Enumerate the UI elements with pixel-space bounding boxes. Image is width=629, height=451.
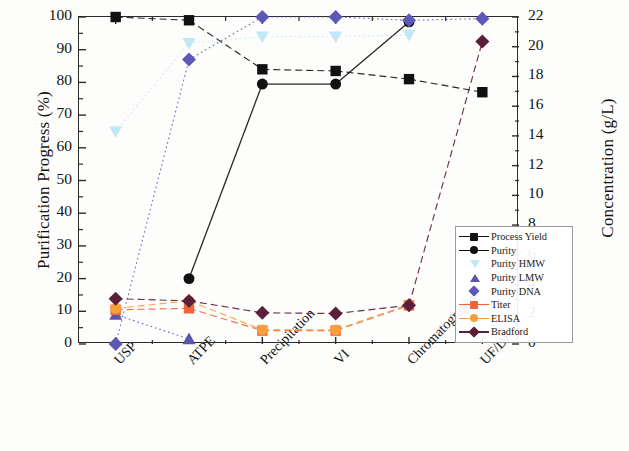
- y2-tick-label: 22: [528, 6, 568, 24]
- data-point: [477, 87, 487, 97]
- series-line: [189, 20, 262, 69]
- series-line: [336, 35, 409, 37]
- series-line: [336, 305, 409, 313]
- legend-label: Titer: [489, 299, 511, 310]
- data-point: [255, 306, 269, 320]
- legend-item[interactable]: Purity LMW: [459, 271, 568, 285]
- legend-label: Purity HMW: [489, 258, 545, 269]
- data-point: [475, 12, 489, 26]
- y2-tick-label: 12: [528, 155, 568, 173]
- legend-marker-circle-icon: [459, 244, 489, 257]
- legend-item[interactable]: Purity: [459, 244, 568, 258]
- legend-label: ELISA: [489, 313, 520, 324]
- y2-tick-label: 18: [528, 65, 568, 83]
- x-tick-label: VI: [331, 346, 353, 368]
- y2-tick-label: 20: [528, 36, 568, 54]
- y-tick-label: 70: [32, 104, 72, 122]
- data-point: [403, 30, 416, 42]
- legend-item[interactable]: Purity HMW: [459, 257, 568, 271]
- data-point: [330, 66, 340, 76]
- purification-progress-chart: Purification Progress (%) Concentration …: [0, 0, 629, 451]
- series-line: [262, 69, 335, 71]
- data-point: [184, 15, 194, 25]
- y-tick-label: 90: [32, 39, 72, 57]
- series-line: [116, 301, 189, 308]
- legend-item[interactable]: ELISA: [459, 312, 568, 326]
- data-point: [182, 52, 196, 66]
- series-line: [189, 308, 262, 330]
- data-point: [329, 307, 343, 321]
- series-line: [189, 301, 262, 313]
- y-axis-right-title: Concentration (g/L): [598, 38, 618, 298]
- chart-legend: Process YieldPurityPurity HMWPurity LMWP…: [455, 226, 573, 343]
- plot-area: [78, 16, 518, 343]
- data-point: [110, 12, 120, 22]
- y-tick-label: 50: [32, 170, 72, 188]
- legend-label: Purity LMW: [489, 272, 544, 283]
- y2-tick-label: 10: [528, 184, 568, 202]
- series-line: [262, 313, 335, 314]
- series-line: [189, 17, 262, 60]
- legend-label: Purity: [489, 245, 516, 256]
- data-point: [330, 79, 341, 90]
- y-tick-label: 0: [32, 333, 72, 351]
- data-point: [183, 333, 196, 345]
- series-line: [336, 305, 409, 330]
- series-line: [116, 60, 189, 344]
- data-point: [402, 13, 416, 27]
- series-line: [116, 43, 189, 131]
- legend-marker-square-icon: [459, 298, 489, 311]
- data-point: [329, 31, 342, 43]
- legend-label: Purity DNA: [489, 286, 541, 297]
- y-tick-label: 20: [32, 268, 72, 286]
- data-point: [184, 273, 195, 284]
- series-canvas: [79, 17, 519, 344]
- y-tick-label: 30: [32, 235, 72, 253]
- data-point: [255, 10, 269, 24]
- legend-marker-circle-icon: [459, 312, 489, 325]
- y-tick-label: 10: [32, 300, 72, 318]
- y2-tick-label: 14: [528, 125, 568, 143]
- data-point: [475, 35, 489, 49]
- data-point: [257, 324, 268, 335]
- legend-marker-triangle-up-icon: [459, 271, 489, 284]
- data-point: [404, 74, 414, 84]
- data-point: [109, 292, 123, 306]
- y2-tick-label: 16: [528, 95, 568, 113]
- legend-marker-triangle-down-icon: [459, 257, 489, 270]
- series-line: [189, 301, 262, 330]
- legend-label: Process Yield: [489, 231, 547, 242]
- y-tick-label: 100: [32, 6, 72, 24]
- legend-item[interactable]: Process Yield: [459, 230, 568, 244]
- legend-marker-diamond-icon: [459, 285, 489, 298]
- data-point: [109, 126, 122, 138]
- data-point: [330, 324, 341, 335]
- y-tick-label: 60: [32, 137, 72, 155]
- legend-item[interactable]: Titer: [459, 298, 568, 312]
- series-line: [189, 84, 262, 279]
- y-tick-label: 40: [32, 202, 72, 220]
- series-line: [116, 299, 189, 301]
- series-line: [116, 308, 189, 309]
- series-line: [116, 315, 189, 340]
- legend-marker-diamond-icon: [459, 325, 489, 338]
- legend-marker-square-icon: [459, 230, 489, 243]
- legend-item[interactable]: Bradford: [459, 325, 568, 339]
- legend-item[interactable]: Purity DNA: [459, 284, 568, 298]
- data-point: [257, 64, 267, 74]
- y-tick-label: 80: [32, 71, 72, 89]
- data-point: [329, 10, 343, 24]
- data-point: [183, 38, 196, 50]
- data-point: [257, 79, 268, 90]
- legend-label: Bradford: [489, 326, 528, 337]
